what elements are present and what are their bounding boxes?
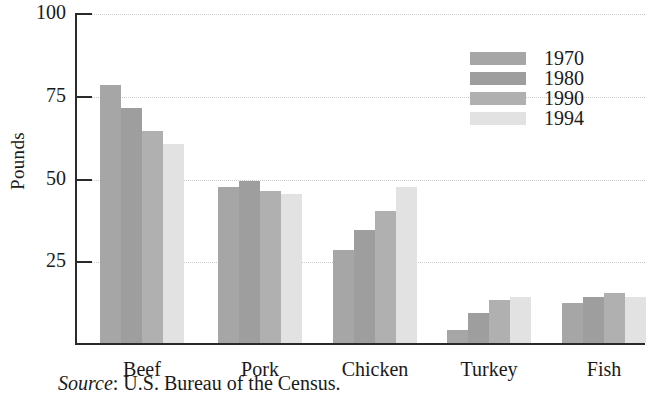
bar-group-chicken: Chicken <box>333 14 417 343</box>
x-axis-line <box>75 343 645 345</box>
bar-pork-1970 <box>218 187 239 343</box>
bar-fish-1990 <box>604 293 625 343</box>
bar-chicken-1980 <box>354 230 375 343</box>
bar-beef-1990 <box>142 131 163 343</box>
legend-label-1970: 1970 <box>544 48 584 68</box>
bar-group-beef: Beef <box>100 14 184 343</box>
bar-pork-1994 <box>281 194 302 343</box>
source-separator: : <box>113 372 124 394</box>
legend-swatch-1994 <box>470 112 526 125</box>
bar-turkey-1970 <box>447 330 468 343</box>
legend-item-1980: 1980 <box>470 68 620 88</box>
bar-fish-1970 <box>562 303 583 343</box>
legend-swatch-1970 <box>470 52 526 65</box>
bar-group-pork: Pork <box>218 14 302 343</box>
bar-chicken-1990 <box>375 211 396 343</box>
legend-item-1990: 1990 <box>470 88 620 108</box>
legend-item-1994: 1994 <box>470 108 620 128</box>
legend-item-1970: 1970 <box>470 48 620 68</box>
bar-beef-1994 <box>163 144 184 343</box>
legend-label-1980: 1980 <box>544 68 584 88</box>
legend-swatch-1980 <box>470 72 526 85</box>
legend-swatch-1990 <box>470 92 526 105</box>
y-tick-label-50: 50 <box>11 168 66 188</box>
bar-chicken-1994 <box>396 187 417 343</box>
bar-turkey-1990 <box>489 300 510 343</box>
legend: 1970198019901994 <box>470 48 620 128</box>
bar-turkey-1980 <box>468 313 489 343</box>
y-tick-label-100: 100 <box>11 2 66 22</box>
bar-beef-1980 <box>121 108 142 343</box>
bar-fish-1994 <box>625 297 646 343</box>
bar-pork-1990 <box>260 191 281 343</box>
legend-label-1994: 1994 <box>544 108 584 128</box>
source-prefix: Source <box>58 372 113 394</box>
y-axis-label: Pounds <box>7 121 29 201</box>
source-note: Source: U.S. Bureau of the Census. <box>58 372 341 395</box>
bar-fish-1980 <box>583 297 604 343</box>
source-text: U.S. Bureau of the Census. <box>123 372 340 394</box>
x-axis-label-fish: Fish <box>534 358 654 381</box>
bar-chart-figure: Pounds 255075100 BeefPorkChickenTurkeyFi… <box>0 0 654 397</box>
y-tick-label-25: 25 <box>11 250 66 270</box>
legend-label-1990: 1990 <box>544 88 584 108</box>
y-tick-label-75: 75 <box>11 85 66 105</box>
bar-turkey-1994 <box>510 297 531 343</box>
bar-chicken-1970 <box>333 250 354 343</box>
bar-beef-1970 <box>100 85 121 343</box>
bar-pork-1980 <box>239 181 260 343</box>
